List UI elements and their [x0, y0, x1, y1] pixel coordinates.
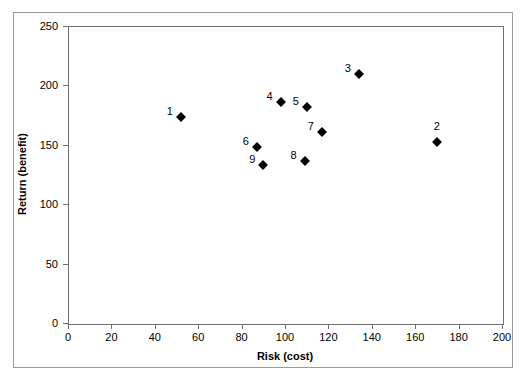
- x-tick-mark: [285, 324, 286, 329]
- x-tick-label: 140: [363, 332, 381, 343]
- x-tick-mark: [415, 324, 416, 329]
- y-tick-label: 250: [40, 21, 58, 32]
- y-tick-label: 50: [46, 258, 58, 269]
- y-tick-mark: [63, 145, 68, 146]
- x-tick-label: 20: [105, 332, 117, 343]
- x-axis-title: Risk (cost): [257, 350, 313, 362]
- y-axis-title: Return (benefit): [16, 133, 28, 215]
- y-tick-mark: [63, 26, 68, 27]
- y-tick-label: 150: [40, 139, 58, 150]
- data-point-label: 7: [308, 120, 314, 131]
- x-tick-label: 100: [276, 332, 294, 343]
- x-tick-mark: [155, 324, 156, 329]
- y-tick-label: 200: [40, 80, 58, 91]
- x-tick-mark: [242, 324, 243, 329]
- y-tick-mark: [63, 204, 68, 205]
- data-point-label: 9: [249, 153, 255, 164]
- x-tick-mark: [68, 324, 69, 329]
- x-tick-label: 160: [406, 332, 424, 343]
- x-tick-label: 80: [235, 332, 247, 343]
- x-tick-label: 40: [149, 332, 161, 343]
- y-tick-label: 100: [40, 199, 58, 210]
- data-point-label: 2: [434, 121, 440, 132]
- x-tick-label: 200: [493, 332, 511, 343]
- x-tick-mark: [459, 324, 460, 329]
- y-tick-label: 0: [52, 318, 58, 329]
- x-tick-label: 0: [65, 332, 71, 343]
- x-tick-mark: [502, 324, 503, 329]
- x-tick-mark: [372, 324, 373, 329]
- x-tick-mark: [111, 324, 112, 329]
- x-tick-label: 180: [449, 332, 467, 343]
- data-point-label: 5: [293, 95, 299, 106]
- x-tick-label: 120: [319, 332, 337, 343]
- plot-area: [68, 26, 504, 325]
- x-tick-label: 60: [192, 332, 204, 343]
- scatter-chart-figure: 050100150200250 020406080100120140160180…: [0, 0, 531, 387]
- data-point-label: 8: [290, 150, 296, 161]
- x-tick-mark: [198, 324, 199, 329]
- y-tick-mark: [63, 264, 68, 265]
- x-tick-mark: [328, 324, 329, 329]
- y-tick-mark: [63, 85, 68, 86]
- data-point-label: 3: [345, 62, 351, 73]
- data-point-label: 1: [167, 106, 173, 117]
- data-point-label: 6: [243, 136, 249, 147]
- data-point-label: 4: [267, 91, 273, 102]
